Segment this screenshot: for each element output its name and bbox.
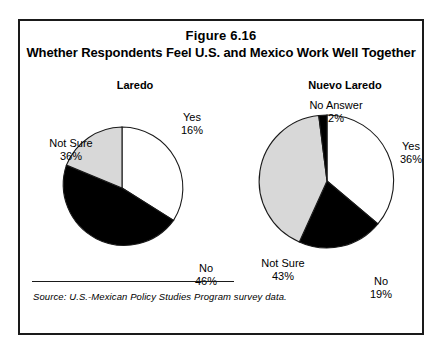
slice-label-nuevo-yes-name: Yes xyxy=(402,140,420,152)
slice-label-laredo-yes: Yes 16% xyxy=(181,111,203,137)
slice-label-nuevo-no-name: No xyxy=(374,275,388,287)
figure-number: Figure 6.16 xyxy=(20,27,422,44)
figure-title: Whether Respondents Feel U.S. and Mexico… xyxy=(20,44,422,61)
slice-label-laredo-yes-pct: 16% xyxy=(181,124,203,137)
slice-label-laredo-notsure-name: Not Sure xyxy=(49,137,92,149)
title-block: Figure 6.16 Whether Respondents Feel U.S… xyxy=(20,27,422,61)
figure-frame: Figure 6.16 Whether Respondents Feel U.S… xyxy=(18,19,424,335)
slice-label-laredo-no: No 46% xyxy=(195,262,217,288)
slice-label-laredo-notsure-pct: 36% xyxy=(49,150,92,163)
slice-label-nuevo-no-pct: 19% xyxy=(370,288,392,301)
slice-label-nuevo-noanswer: No Answer 2% xyxy=(309,99,362,125)
slice-label-nuevo-notsure: Not Sure 43% xyxy=(261,257,304,283)
slice-label-nuevo-noanswer-name: No Answer xyxy=(309,99,362,111)
slice-label-laredo-yes-name: Yes xyxy=(183,111,201,123)
panel-caption-laredo: Laredo xyxy=(117,79,154,91)
slice-label-laredo-no-name: No xyxy=(199,262,213,274)
panel-caption-nuevo: Nuevo Laredo xyxy=(308,79,381,91)
slice-label-nuevo-notsure-name: Not Sure xyxy=(261,257,304,269)
slice-label-nuevo-noanswer-pct: 2% xyxy=(309,112,362,125)
pie-chart-nuevo-laredo xyxy=(260,114,394,248)
source-note: Source: U.S.-Mexican Policy Studies Prog… xyxy=(33,291,287,302)
source-divider xyxy=(32,281,234,282)
slice-label-nuevo-yes: Yes 36% xyxy=(400,140,422,166)
slice-label-nuevo-yes-pct: 36% xyxy=(400,153,422,166)
slice-label-nuevo-no: No 19% xyxy=(370,275,392,301)
slice-label-nuevo-notsure-pct: 43% xyxy=(261,270,304,283)
slice-label-laredo-notsure: Not Sure 36% xyxy=(49,137,92,163)
